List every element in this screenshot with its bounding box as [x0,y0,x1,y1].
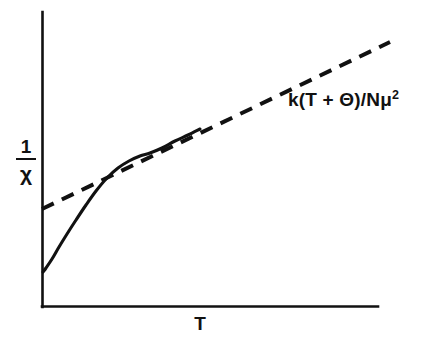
asymptote-formula-base: k(T + Θ)/Nμ [288,89,392,110]
y-axis-label-denominator: χ [9,163,43,184]
inverse-susceptibility-curve [43,129,200,272]
plot-canvas [0,0,426,339]
asymptote-formula-label: k(T + Θ)/Nμ2 [288,89,399,111]
asymptote-formula-exponent: 2 [392,88,399,102]
figure-container: 1 χ T k(T + Θ)/Nμ2 [0,0,426,339]
y-axis-label: 1 χ [9,137,43,184]
x-axis-label: T [185,313,215,335]
y-axis-label-numerator: 1 [9,137,43,158]
asymptote-dashed-line [42,42,390,209]
fraction-bar-icon [16,158,36,160]
